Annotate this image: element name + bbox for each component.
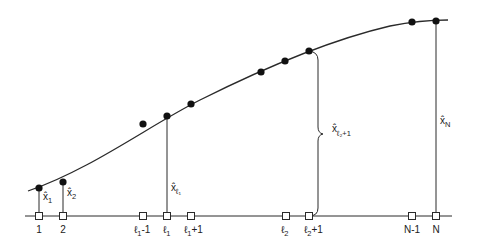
- axis-label-2: 2: [60, 224, 66, 235]
- dot-l1: [163, 112, 170, 119]
- axis-label-N: N: [432, 224, 439, 235]
- square-Nm1: [409, 213, 416, 220]
- estimate-label-xl1: x̂ℓ₁: [171, 182, 181, 196]
- axis-label-Nm1: N-1: [404, 224, 421, 235]
- dot-1: [35, 184, 42, 191]
- square-N: [433, 213, 440, 220]
- dot-a: [257, 68, 264, 75]
- curve-dots: [35, 17, 439, 191]
- axis-label-l1: ℓ1: [163, 224, 170, 238]
- estimate-diagram: 1 2 ℓ1-1 ℓ1 ℓ1+1 ℓ2 ℓ2+1 N-1 N x̂1 x̂2 x…: [0, 0, 478, 248]
- estimate-curve: [28, 20, 448, 191]
- dot-l1p1: [187, 100, 194, 107]
- axis-label-1: 1: [36, 224, 42, 235]
- axis-label-l1p1: ℓ1+1: [184, 224, 203, 238]
- dot-N: [432, 17, 439, 24]
- axis-label-l2: ℓ2: [281, 224, 288, 238]
- square-l1: [164, 213, 171, 220]
- axis-label-l1m1: ℓ1-1: [134, 224, 151, 238]
- dot-Nm1: [408, 18, 415, 25]
- brace-l2p1: [309, 51, 323, 216]
- axis-label-l2p1: ℓ2+1: [304, 224, 323, 238]
- estimate-label-x1: x̂1: [43, 191, 52, 205]
- dot-2: [59, 178, 66, 185]
- dot-l2p1: [305, 47, 312, 54]
- estimate-label-xN: x̂N: [440, 115, 450, 129]
- square-1: [36, 213, 43, 220]
- square-l1p1: [188, 213, 195, 220]
- square-2: [60, 213, 67, 220]
- square-l1m1: [140, 213, 147, 220]
- estimate-label-xl2p1: x̂ℓ₂+1: [332, 123, 351, 138]
- estimate-label-x2: x̂2: [67, 187, 76, 201]
- square-l2: [283, 213, 290, 220]
- dot-l2: [281, 57, 288, 64]
- square-l2p1: [306, 213, 313, 220]
- dot-l1m1: [139, 120, 146, 127]
